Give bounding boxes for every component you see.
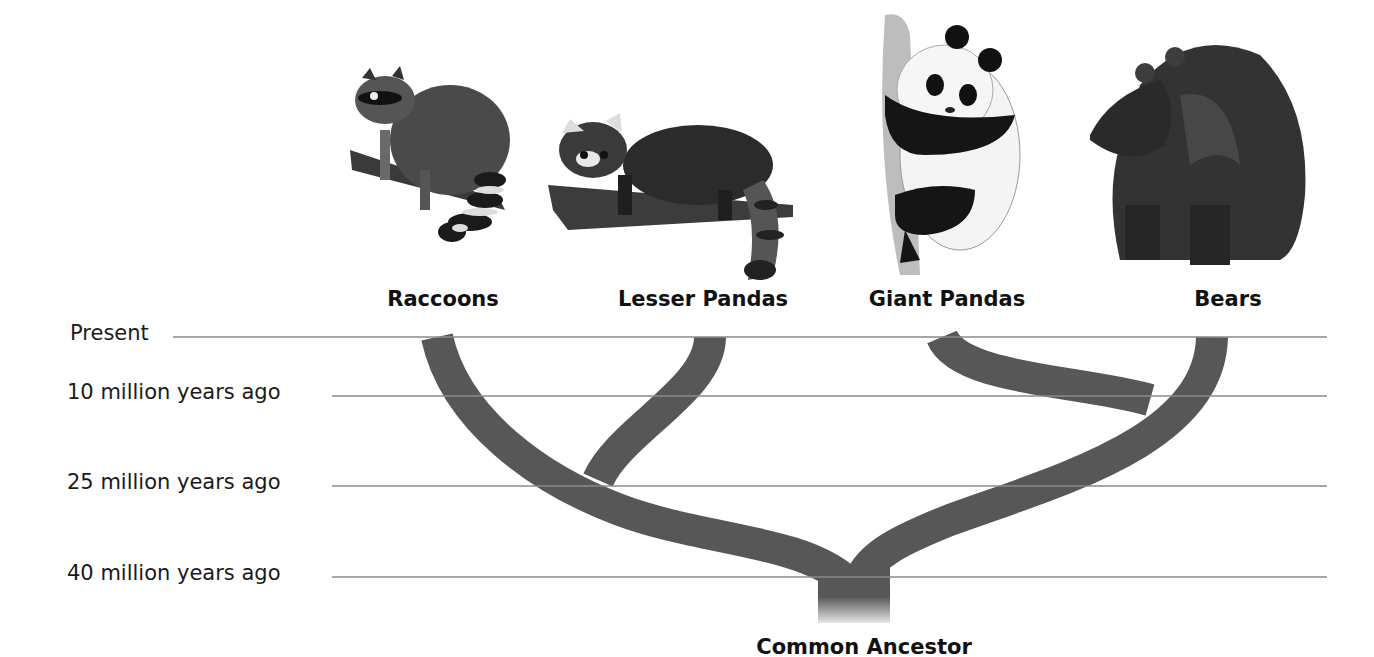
time-label-present: Present	[70, 323, 149, 344]
taxon-label-bears: Bears	[1194, 289, 1261, 310]
root-trunk	[818, 565, 890, 623]
taxon-label-lesser-pandas: Lesser Pandas	[618, 289, 788, 310]
taxon-label-giant-pandas: Giant Pandas	[869, 289, 1026, 310]
branch-raccoons	[437, 337, 845, 580]
branch-giant-pandas	[942, 337, 1150, 400]
common-ancestor-label: Common Ancestor	[756, 637, 972, 657]
phylogenetic-tree	[0, 0, 1374, 657]
branch-lesser-pandas	[598, 337, 710, 480]
tree-branches	[437, 337, 1212, 580]
time-label-40-mya: 40 million years ago	[67, 563, 281, 584]
taxon-label-raccoons: Raccoons	[387, 289, 499, 310]
time-label-25-mya: 25 million years ago	[67, 472, 281, 493]
time-label-10-mya: 10 million years ago	[67, 382, 281, 403]
